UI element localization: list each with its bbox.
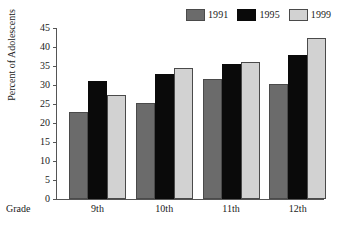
bar-chart: 199119951999 051015202530354045 9th10th1…	[0, 0, 339, 234]
y-tick-label: 40	[40, 42, 50, 52]
bar-12th-1991	[269, 84, 288, 199]
legend-item-1995: 1995	[237, 9, 279, 21]
y-tick-label: 45	[40, 23, 50, 33]
y-tick-label: 0	[45, 194, 50, 204]
x-axis-title: Grade	[6, 204, 30, 214]
x-axis-line	[56, 199, 324, 200]
bar-12th-1995	[288, 55, 307, 199]
y-tick-mark	[53, 180, 56, 181]
bar-9th-1999	[107, 95, 126, 199]
bar-group-10th	[136, 28, 193, 199]
bar-10th-1995	[155, 74, 174, 199]
legend-item-1999: 1999	[289, 9, 331, 21]
y-tick-label: 10	[40, 156, 50, 166]
y-tick-label: 35	[40, 61, 50, 71]
y-tick-mark	[53, 142, 56, 143]
y-tick-label: 5	[45, 175, 50, 185]
y-tick-mark	[53, 28, 56, 29]
legend-swatch-icon	[289, 9, 308, 21]
y-tick-mark	[53, 199, 56, 200]
legend-item-1991: 1991	[186, 9, 228, 21]
legend-label: 1991	[208, 10, 228, 20]
y-tick-label: 15	[40, 137, 50, 147]
bar-9th-1991	[69, 112, 88, 199]
y-tick-mark	[53, 85, 56, 86]
y-tick-mark	[53, 47, 56, 48]
bar-11th-1995	[222, 64, 241, 199]
bar-9th-1995	[88, 81, 107, 199]
bar-group-9th	[69, 28, 126, 199]
x-tick-label: 10th	[155, 204, 173, 214]
y-tick-label: 20	[40, 118, 50, 128]
chart-legend: 199119951999	[186, 7, 331, 23]
y-tick-mark	[53, 104, 56, 105]
y-tick-mark	[53, 123, 56, 124]
bar-10th-1999	[174, 68, 193, 199]
bar-group-12th	[269, 28, 326, 199]
legend-swatch-icon	[237, 9, 256, 21]
bar-12th-1999	[307, 38, 326, 200]
plot-area: 051015202530354045	[56, 28, 324, 200]
y-tick-label: 25	[40, 99, 50, 109]
legend-swatch-icon	[186, 9, 205, 21]
bar-group-11th	[203, 28, 260, 199]
bars-layer	[57, 28, 324, 199]
x-tick-label: 9th	[91, 204, 104, 214]
x-tick-label: 12th	[289, 204, 307, 214]
y-tick-mark	[53, 66, 56, 67]
bar-10th-1991	[136, 103, 155, 199]
y-tick-label: 30	[40, 80, 50, 90]
legend-label: 1999	[311, 10, 331, 20]
x-axis-ticks: 9th10th11th12th	[56, 204, 324, 220]
bar-11th-1991	[203, 79, 222, 199]
y-axis-title: Percent of Adolescents	[7, 0, 17, 115]
bar-11th-1999	[241, 62, 260, 199]
legend-label: 1995	[259, 10, 279, 20]
y-tick-mark	[53, 161, 56, 162]
x-tick-label: 11th	[222, 204, 239, 214]
